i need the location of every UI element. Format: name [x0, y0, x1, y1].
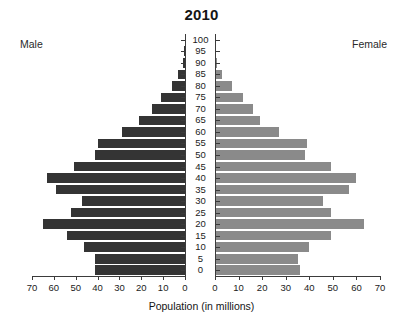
- bar-row-female-age-75: [215, 93, 380, 103]
- age-tick-left-10: [181, 247, 186, 248]
- age-label-50: 50: [186, 150, 215, 160]
- bar-row-male-age-100: [32, 35, 185, 45]
- bar-row-female-age-85: [215, 70, 380, 80]
- x-tick-right-70: [380, 276, 381, 280]
- bar-row-female-age-60: [215, 127, 380, 137]
- bar-row-female-age-15: [215, 231, 380, 241]
- x-tick-label-left-60: 60: [43, 282, 65, 293]
- age-tick-right-15: [215, 236, 220, 237]
- age-tick-left-90: [181, 63, 186, 64]
- age-tick-right-45: [215, 167, 220, 168]
- age-label-60: 60: [186, 127, 215, 137]
- age-label-10: 10: [186, 242, 215, 252]
- chart-title: 2010: [0, 6, 403, 23]
- female-bar-age-0: [215, 265, 300, 275]
- x-tick-label-left-20: 20: [130, 282, 152, 293]
- x-tick-right-10: [239, 276, 240, 280]
- male-bar-age-60: [122, 127, 185, 137]
- male-bar-age-35: [56, 185, 185, 195]
- age-tick-left-30: [181, 201, 186, 202]
- bar-row-male-age-75: [32, 93, 185, 103]
- age-tick-left-60: [181, 132, 186, 133]
- female-bar-age-65: [215, 116, 260, 126]
- male-bar-age-30: [82, 196, 185, 206]
- x-tick-right-0: [215, 276, 216, 280]
- age-tick-right-90: [215, 63, 220, 64]
- age-label-20: 20: [186, 219, 215, 229]
- age-tick-left-55: [181, 143, 186, 144]
- x-tick-label-right-50: 50: [322, 282, 344, 293]
- age-tick-left-45: [181, 167, 186, 168]
- x-tick-label-right-0: 0: [204, 282, 226, 293]
- x-tick-right-60: [356, 276, 357, 280]
- x-tick-right-20: [262, 276, 263, 280]
- female-bar-age-55: [215, 139, 307, 149]
- bar-row-female-age-80: [215, 81, 380, 91]
- bar-row-female-age-10: [215, 242, 380, 252]
- age-tick-left-50: [181, 155, 186, 156]
- age-label-0: 0: [186, 265, 215, 275]
- bar-row-male-age-15: [32, 231, 185, 241]
- x-tick-label-right-70: 70: [369, 282, 391, 293]
- female-bar-rows: [215, 34, 380, 276]
- bar-row-male-age-60: [32, 127, 185, 137]
- age-tick-right-50: [215, 155, 220, 156]
- x-tick-label-left-70: 70: [21, 282, 43, 293]
- x-tick-label-left-50: 50: [65, 282, 87, 293]
- x-tick-label-right-10: 10: [228, 282, 250, 293]
- age-tick-right-75: [215, 97, 220, 98]
- bar-row-male-age-45: [32, 162, 185, 172]
- bar-row-female-age-5: [215, 254, 380, 264]
- age-tick-right-100: [215, 40, 220, 41]
- age-tick-right-10: [215, 247, 220, 248]
- age-label-85: 85: [186, 69, 215, 79]
- bar-row-male-age-65: [32, 116, 185, 126]
- plot-area: 0510152025303540455055606570758085909510…: [0, 34, 403, 276]
- age-label-5: 5: [186, 254, 215, 264]
- age-tick-right-60: [215, 132, 220, 133]
- bar-row-female-age-50: [215, 150, 380, 160]
- age-label-45: 45: [186, 162, 215, 172]
- age-tick-left-5: [181, 259, 186, 260]
- x-tick-left-70: [32, 276, 33, 280]
- bar-row-male-age-95: [32, 46, 185, 56]
- x-tick-label-left-40: 40: [87, 282, 109, 293]
- bar-row-female-age-65: [215, 116, 380, 126]
- x-tick-right-50: [333, 276, 334, 280]
- male-bar-age-65: [139, 116, 185, 126]
- age-tick-left-95: [181, 51, 186, 52]
- bar-row-male-age-80: [32, 81, 185, 91]
- female-bar-age-70: [215, 104, 253, 114]
- age-tick-right-95: [215, 51, 220, 52]
- x-tick-label-right-40: 40: [298, 282, 320, 293]
- age-tick-right-25: [215, 213, 220, 214]
- female-bar-age-35: [215, 185, 349, 195]
- x-tick-label-right-60: 60: [345, 282, 367, 293]
- age-tick-right-35: [215, 190, 220, 191]
- male-bar-age-10: [84, 242, 185, 252]
- age-label-40: 40: [186, 173, 215, 183]
- male-bar-age-15: [67, 231, 185, 241]
- bar-row-female-age-20: [215, 219, 380, 229]
- bar-row-female-age-55: [215, 139, 380, 149]
- male-bar-age-40: [47, 173, 185, 183]
- female-bar-age-45: [215, 162, 331, 172]
- age-tick-right-0: [215, 270, 220, 271]
- bar-row-female-age-25: [215, 208, 380, 218]
- age-tick-left-80: [181, 86, 186, 87]
- x-tick-left-40: [98, 276, 99, 280]
- age-label-100: 100: [186, 35, 215, 45]
- female-bars-region: [215, 34, 380, 276]
- age-tick-left-25: [181, 213, 186, 214]
- female-bar-age-30: [215, 196, 323, 206]
- x-tick-right-40: [309, 276, 310, 280]
- bar-row-male-age-5: [32, 254, 185, 264]
- x-tick-left-30: [119, 276, 120, 280]
- x-tick-label-left-10: 10: [152, 282, 174, 293]
- age-label-90: 90: [186, 58, 215, 68]
- bar-row-female-age-35: [215, 185, 380, 195]
- age-tick-left-65: [181, 120, 186, 121]
- age-label-35: 35: [186, 185, 215, 195]
- age-tick-left-40: [181, 178, 186, 179]
- age-axis-labels: 0510152025303540455055606570758085909510…: [186, 34, 215, 276]
